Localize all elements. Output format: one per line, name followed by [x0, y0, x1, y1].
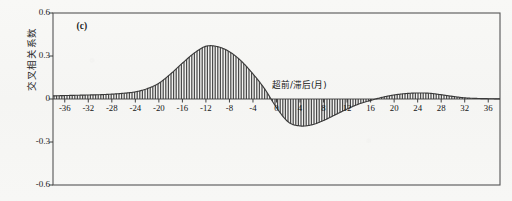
x-tick-label: 16 [366, 103, 375, 113]
panel-letter: (c) [77, 21, 88, 31]
x-tick-label: -32 [82, 103, 94, 113]
x-tick-label: 12 [343, 103, 352, 113]
x-tick-label: -4 [249, 103, 256, 113]
x-tick-label: -8 [226, 103, 233, 113]
x-tick-label: -20 [153, 103, 165, 113]
x-tick-marks [65, 99, 488, 103]
x-tick-label: -12 [200, 103, 212, 113]
x-tick-label: 28 [437, 103, 446, 113]
x-tick-label: -24 [129, 103, 141, 113]
x-tick-label: 8 [321, 103, 325, 113]
x-tick-label: -28 [106, 103, 118, 113]
figure-panel: 交叉相关系数 0.60.30-0.3-0.6 (c) 超前/滞后(月) -36-… [0, 0, 512, 201]
x-tick-label: -16 [177, 103, 189, 113]
x-tick-label: 36 [484, 103, 493, 113]
x-tick-label: 24 [413, 103, 422, 113]
lead-lag-annotation: 超前/滞后(月) [272, 78, 327, 90]
y-tick-marks [49, 13, 53, 185]
x-tick-label: 20 [390, 103, 399, 113]
x-tick-label: 4 [298, 103, 302, 113]
x-tick-label: 32 [460, 103, 469, 113]
x-tick-label: -36 [59, 103, 71, 113]
x-tick-label: 0 [274, 103, 278, 113]
